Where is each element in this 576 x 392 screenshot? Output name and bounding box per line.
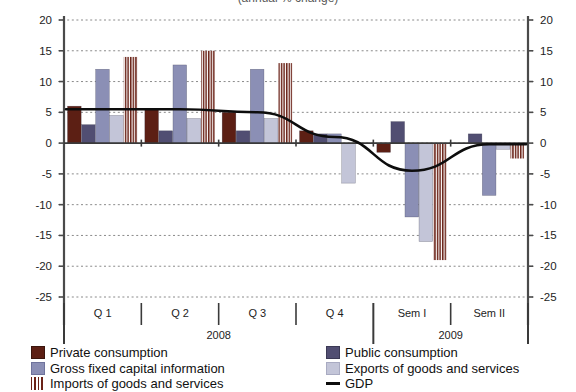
- legend-item-public-consumption: Public consumption: [326, 345, 519, 361]
- x-axis-year-label: 2009: [438, 329, 462, 341]
- y-axis-label-right: 20: [540, 14, 553, 26]
- x-axis-category-label: Q 4: [326, 307, 344, 319]
- x-axis-category-label: Q 3: [248, 307, 266, 319]
- y-axis-label-left: -25: [35, 291, 52, 303]
- x-axis-category-label: Q 2: [171, 307, 189, 319]
- bar: [187, 118, 201, 143]
- legend-swatch-private-consumption: [31, 346, 45, 359]
- bar: [264, 118, 278, 143]
- y-axis-label-left: -20: [35, 260, 52, 272]
- y-axis-label-right: 15: [540, 45, 553, 57]
- legend-item-gdp: GDP: [326, 376, 519, 392]
- legend-column-right: Public consumption Exports of goods and …: [326, 345, 519, 392]
- y-axis-label-left: 5: [46, 106, 52, 118]
- y-axis-label-left: 10: [39, 76, 52, 88]
- legend-swatch-exports: [326, 362, 340, 375]
- legend-label-exports: Exports of goods and services: [345, 361, 519, 376]
- legend-swatch-imports: [31, 377, 45, 390]
- bar: [173, 65, 187, 143]
- bar: [391, 122, 405, 144]
- x-axis-year-label: 2008: [206, 329, 230, 341]
- legend-label-imports: Imports of goods and services: [50, 376, 223, 391]
- bar: [377, 143, 391, 152]
- bar: [68, 106, 82, 143]
- bar: [250, 69, 264, 143]
- legend-item-private-consumption: Private consumption: [31, 345, 225, 361]
- bar: [222, 112, 236, 143]
- bar: [110, 115, 124, 143]
- legend-item-exports: Exports of goods and services: [326, 361, 519, 377]
- x-axis-category-label: Sem II: [473, 307, 505, 319]
- chart-legend: Private consumption Gross fixed capital …: [0, 345, 576, 392]
- y-axis-label-left: 20: [39, 14, 52, 26]
- y-axis-label-left: 15: [39, 45, 52, 57]
- legend-label-gdp: GDP: [345, 376, 373, 391]
- chart-plot-area: 2020151510105500-5-5-10-10-15-15-20-20-2…: [0, 0, 576, 345]
- legend-swatch-gdp: [326, 377, 340, 390]
- y-axis-label-right: -15: [540, 229, 557, 241]
- y-axis-label-left: -15: [35, 229, 52, 241]
- y-axis-label-right: -5: [540, 168, 550, 180]
- y-axis-label-right: -25: [540, 291, 557, 303]
- bar: [419, 143, 433, 241]
- y-axis-label-right: 10: [540, 76, 553, 88]
- bar: [159, 131, 173, 143]
- x-axis-category-label: Sem I: [398, 307, 427, 319]
- bar: [201, 51, 215, 143]
- chart-container: (annual % change) 2020151510105500-5-5-1…: [0, 0, 576, 392]
- chart-title: (annual % change): [0, 0, 576, 12]
- bar: [328, 134, 342, 143]
- legend-item-gross-fixed-capital: Gross fixed capital information: [31, 361, 225, 377]
- bar: [405, 143, 419, 217]
- legend-label-public-consumption: Public consumption: [345, 345, 458, 360]
- legend-swatch-gross-fixed-capital: [31, 362, 45, 375]
- legend-label-gross-fixed-capital: Gross fixed capital information: [50, 361, 225, 376]
- y-axis-label-left: -5: [42, 168, 52, 180]
- legend-column-left: Private consumption Gross fixed capital …: [31, 345, 225, 392]
- y-axis-label-right: 0: [540, 137, 546, 149]
- y-axis-label-left: 0: [46, 137, 52, 149]
- bar: [82, 125, 96, 143]
- bar: [96, 69, 110, 143]
- bar: [236, 131, 250, 143]
- y-axis-label-right: -20: [540, 260, 557, 272]
- legend-swatch-public-consumption: [326, 346, 340, 359]
- bar: [468, 134, 482, 143]
- bar: [278, 63, 292, 143]
- bar: [342, 143, 356, 183]
- bar: [482, 143, 496, 195]
- y-axis-label-right: 5: [540, 106, 546, 118]
- y-axis-label-right: -10: [540, 199, 557, 211]
- legend-item-imports: Imports of goods and services: [31, 376, 225, 392]
- y-axis-label-left: -10: [35, 199, 52, 211]
- bar: [124, 57, 138, 143]
- bar: [145, 109, 159, 143]
- chart-title-text: (annual % change): [0, 0, 576, 5]
- legend-label-private-consumption: Private consumption: [50, 345, 168, 360]
- x-axis-category-label: Q 1: [94, 307, 112, 319]
